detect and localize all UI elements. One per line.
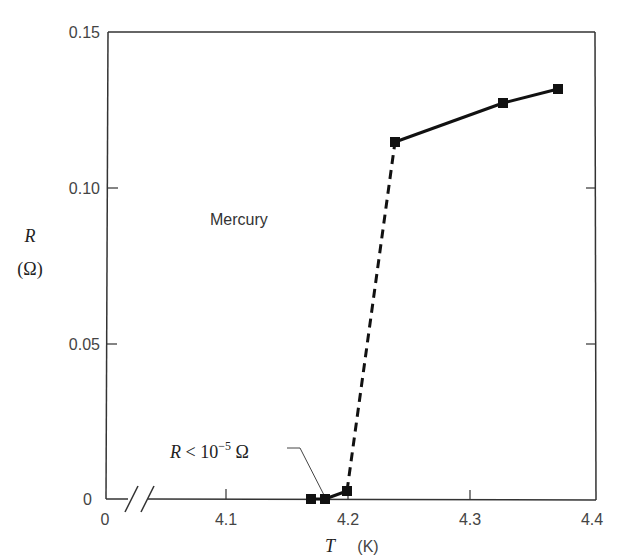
x-axis-title: T <box>325 536 337 556</box>
x-tick-label: 4.1 <box>215 511 237 528</box>
leader-line <box>287 448 325 497</box>
x-tick-label: 0 <box>101 511 110 528</box>
y-axis-labels: 0.15 0.10 0.05 0 <box>69 24 100 508</box>
y-tick-label: 0.05 <box>69 336 100 353</box>
y-axis-unit: (Ω) <box>17 259 42 280</box>
data-point <box>498 98 508 108</box>
y-axis-ticks <box>107 188 596 344</box>
data-point <box>553 84 563 94</box>
x-axis-unit: (K) <box>357 538 378 555</box>
data-point <box>390 137 400 147</box>
x-tick-label: 4.3 <box>459 511 481 528</box>
svg-text:R < 10−5 Ω: R < 10−5 Ω <box>169 439 249 462</box>
y-tick-label: 0.15 <box>69 24 100 41</box>
series-mercury <box>306 84 563 504</box>
x-tick-label: 4.4 <box>581 511 603 528</box>
x-tick-label: 4.2 <box>337 511 359 528</box>
chart: 0.15 0.10 0.05 0 0 4.1 4.2 4.3 4.4 T (K)… <box>0 0 623 559</box>
plot-frame <box>106 32 596 512</box>
x-axis-labels: 0 4.1 4.2 4.3 4.4 <box>101 511 604 528</box>
data-point <box>320 494 330 504</box>
data-point <box>306 494 316 504</box>
limit-annotation: R < 10−5 Ω <box>169 439 325 497</box>
y-axis-title: R <box>24 226 36 246</box>
data-point <box>342 486 352 496</box>
y-tick-label: 0.10 <box>69 180 100 197</box>
y-tick-label: 0 <box>83 491 92 508</box>
material-label: Mercury <box>210 211 268 228</box>
